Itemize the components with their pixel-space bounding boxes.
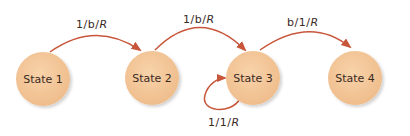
state-diagram: State 1 State 2 State 3 State 4 1/b/R 1/… xyxy=(0,0,410,136)
state-4: State 4 xyxy=(328,51,382,105)
svg-text:State 1: State 1 xyxy=(23,73,63,86)
svg-text:State 4: State 4 xyxy=(335,72,375,85)
label-s3-s4: b/1/R xyxy=(287,16,319,29)
svg-text:State 2: State 2 xyxy=(132,72,172,85)
state-2: State 2 xyxy=(125,51,179,105)
transition-s3-s4 xyxy=(260,32,350,50)
transition-s1-s2 xyxy=(50,35,140,52)
state-3: State 3 xyxy=(226,51,280,105)
state-1: State 1 xyxy=(16,52,70,106)
label-s1-s2: 1/b/R xyxy=(76,18,108,31)
label-s2-s3: 1/b/R xyxy=(183,13,215,26)
label-s3-self: 1/1/R xyxy=(208,116,240,129)
transition-s2-s3 xyxy=(155,28,245,51)
svg-text:State 3: State 3 xyxy=(233,72,273,85)
